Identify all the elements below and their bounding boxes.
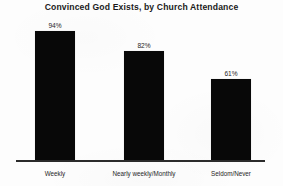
bar-group: 61% — [211, 79, 251, 160]
plot-area: 94% 82% 61% Weekly Nearly weekly/Monthly… — [0, 0, 283, 186]
x-tick-label-group: Nearly weekly/Monthly — [124, 162, 164, 178]
bar-value-label: 94% — [35, 22, 75, 29]
bar-chart: Convinced God Exists, by Church Attendan… — [0, 0, 283, 186]
x-tick-label: Seldom/Never — [211, 170, 251, 177]
x-tick-label: Nearly weekly/Monthly — [113, 170, 176, 177]
bar-value-label: 82% — [124, 42, 164, 49]
x-tick-label-group: Weekly — [35, 162, 75, 178]
bar — [124, 51, 164, 160]
bar — [211, 79, 251, 160]
bar-value-label: 61% — [211, 70, 251, 77]
bar-group: 94% — [35, 31, 75, 160]
x-tick-label: Weekly — [45, 170, 66, 177]
x-tick-label-group: Seldom/Never — [211, 162, 251, 178]
bar — [35, 31, 75, 160]
bar-group: 82% — [124, 51, 164, 160]
